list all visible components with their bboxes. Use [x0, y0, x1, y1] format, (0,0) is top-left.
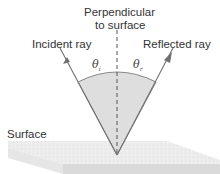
surface-slab-front	[63, 164, 220, 174]
incident-ray-label: Incident ray	[32, 38, 91, 50]
theta-subscript-r: r	[140, 65, 143, 72]
normal-label-line2: to surface	[95, 19, 146, 31]
angle-of-incidence-label: θi	[92, 58, 101, 72]
theta-symbol: θ	[92, 58, 99, 71]
reflected-ray-label: Reflected ray	[143, 38, 211, 50]
reflected-arrow-icon	[164, 52, 172, 63]
theta-subscript-i: i	[99, 65, 101, 72]
incident-arrow-icon	[63, 57, 70, 64]
angle-of-reflection-label: θr	[133, 58, 143, 72]
theta-symbol: θ	[133, 58, 140, 71]
normal-label-line1: Perpendicular	[84, 6, 155, 18]
surface-label: Surface	[7, 128, 47, 140]
